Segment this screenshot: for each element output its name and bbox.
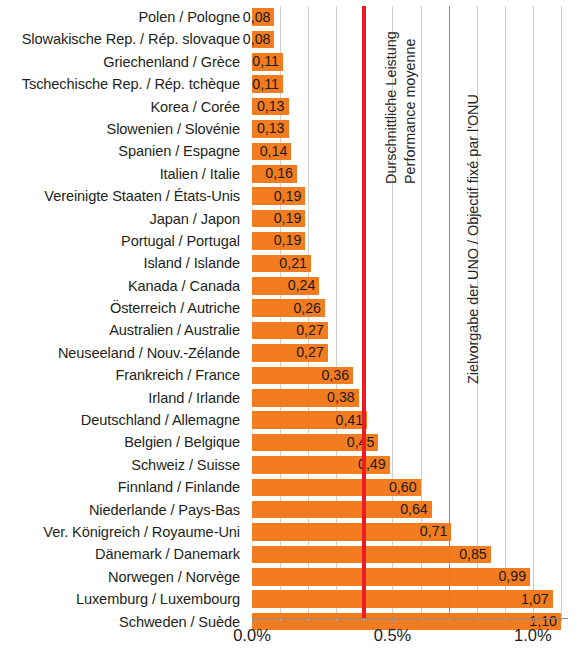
category-label: Island / Islande xyxy=(0,252,246,274)
bar xyxy=(252,590,553,608)
category-label: Griechenland / Grèce xyxy=(0,51,246,73)
bar-row: 0,08 xyxy=(252,6,568,28)
bar-value-label: 0,08 xyxy=(243,8,275,27)
bar xyxy=(252,546,491,564)
x-tick-minor xyxy=(449,618,450,621)
average-performance-line xyxy=(362,6,366,618)
un-target-label: Zielvorgabe der UNO / Objectif fixé par … xyxy=(465,94,481,384)
x-tick-label: 1.0% xyxy=(514,626,552,645)
plot-area: 0,080,080,110,110,130,130,140,160,190,19… xyxy=(252,6,568,618)
bar-value-label: 0,85 xyxy=(459,545,491,564)
category-label: Schweden / Suède xyxy=(0,611,246,633)
bar-row: 0,21 xyxy=(252,252,568,274)
bar-row: 0,64 xyxy=(252,499,568,521)
category-label: Luxemburg / Luxembourg xyxy=(0,588,246,610)
bar-value-label: 0,26 xyxy=(293,299,325,318)
bar-value-label: 0,19 xyxy=(274,231,306,250)
bar-row: 0,19 xyxy=(252,185,568,207)
bar-row: 0,71 xyxy=(252,521,568,543)
category-label: Japan / Japon xyxy=(0,208,246,230)
category-axis-labels: Polen / PologneSlowakische Rep. / Rép. s… xyxy=(0,6,246,633)
bar-value-label: 0,27 xyxy=(296,321,328,340)
category-label: Schweiz / Suisse xyxy=(0,454,246,476)
bar-row: 0,19 xyxy=(252,230,568,252)
bar-value-label: 0,13 xyxy=(257,119,289,138)
bar-value-label: 0,16 xyxy=(265,164,297,183)
bar-value-label: 0,38 xyxy=(327,388,359,407)
bar-value-label: 0,08 xyxy=(243,30,275,49)
bar-value-label: 0,21 xyxy=(279,254,311,273)
x-tick-minor xyxy=(477,618,478,621)
category-label: Österreich / Autriche xyxy=(0,297,246,319)
category-label: Neuseeland / Nouv.-Zélande xyxy=(0,342,246,364)
category-label: Ver. Königreich / Royaume-Uni xyxy=(0,521,246,543)
bar-row: 0,26 xyxy=(252,297,568,319)
category-label: Korea / Corée xyxy=(0,96,246,118)
bar-value-label: 0,36 xyxy=(321,366,353,385)
category-label: Spanien / Espagne xyxy=(0,140,246,162)
x-tick-minor xyxy=(505,618,506,621)
category-label: Norwegen / Norvège xyxy=(0,566,246,588)
average-performance-label-fr: Performance moyenne xyxy=(402,38,418,184)
category-label: Tschechische Rep. / Rép. tchèque xyxy=(0,73,246,95)
category-label: Niederlande / Pays-Bas xyxy=(0,499,246,521)
un-target-line xyxy=(449,6,450,618)
bar-row: 0,38 xyxy=(252,387,568,409)
bar-value-label: 0,19 xyxy=(274,209,306,228)
bar-value-label: 1,07 xyxy=(521,590,553,609)
bar-value-label: 0,13 xyxy=(257,97,289,116)
bar-value-label: 0,14 xyxy=(260,142,292,161)
bar-row: 0,49 xyxy=(252,454,568,476)
bar-row: 0,45 xyxy=(252,431,568,453)
bar-value-label: 0,64 xyxy=(400,500,432,519)
x-axis-line xyxy=(252,618,568,619)
x-tick xyxy=(252,618,253,623)
category-label: Vereinigte Staaten / États-Unis xyxy=(0,185,246,207)
bar-chart: Polen / PologneSlowakische Rep. / Rép. s… xyxy=(0,0,579,653)
category-label: Dänemark / Danemark xyxy=(0,543,246,565)
bar-value-label: 0,11 xyxy=(252,75,283,94)
category-label: Belgien / Belgique xyxy=(0,431,246,453)
bar xyxy=(252,568,530,586)
bar-row: 0,27 xyxy=(252,319,568,341)
category-label: Frankreich / France xyxy=(0,364,246,386)
bar-value-label: 0,27 xyxy=(296,343,328,362)
category-label: Irland / Irlande xyxy=(0,387,246,409)
x-tick-minor xyxy=(308,618,309,621)
category-label: Finnland / Finlande xyxy=(0,476,246,498)
category-label: Kanada / Canada xyxy=(0,275,246,297)
x-tick-minor xyxy=(421,618,422,621)
category-label: Italien / Italie xyxy=(0,163,246,185)
bar-value-label: 0,11 xyxy=(252,52,283,71)
x-tick-minor xyxy=(561,618,562,621)
bar-row: 0,19 xyxy=(252,208,568,230)
bar-row: 0,27 xyxy=(252,342,568,364)
bar-value-label: 0,60 xyxy=(389,478,421,497)
bar-value-label: 0,71 xyxy=(420,522,452,541)
bar-row: 0,85 xyxy=(252,543,568,565)
average-performance-label-de: Durschnittliche Leistung xyxy=(383,31,399,184)
x-tick xyxy=(533,618,534,623)
x-tick-label: 0.0% xyxy=(233,626,271,645)
category-label: Slowakische Rep. / Rép. slovaque xyxy=(0,28,246,50)
category-label: Australien / Australie xyxy=(0,319,246,341)
bar-value-label: 0,19 xyxy=(274,187,306,206)
bar-row: 0,41 xyxy=(252,409,568,431)
bar-row: 0,36 xyxy=(252,364,568,386)
category-label: Deutschland / Allemagne xyxy=(0,409,246,431)
bar-row: 0,24 xyxy=(252,275,568,297)
bar-row: 0,60 xyxy=(252,476,568,498)
x-tick-label: 0.5% xyxy=(374,626,412,645)
x-tick-minor xyxy=(364,618,365,621)
bar-value-label: 0,24 xyxy=(288,276,320,295)
category-label: Portugal / Portugal xyxy=(0,230,246,252)
x-tick xyxy=(392,618,393,623)
bar-row: 1,07 xyxy=(252,588,568,610)
category-label: Polen / Pologne xyxy=(0,6,246,28)
category-label: Slowenien / Slovénie xyxy=(0,118,246,140)
x-tick-minor xyxy=(336,618,337,621)
x-tick-minor xyxy=(280,618,281,621)
bar-row: 0,99 xyxy=(252,566,568,588)
bar-value-label: 0,99 xyxy=(498,567,530,586)
